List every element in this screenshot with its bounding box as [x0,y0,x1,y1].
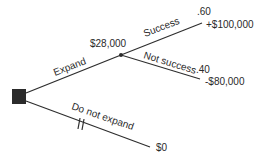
not-expand-label: Do not expand [70,100,135,132]
decision-node [12,89,26,104]
not-expand-payoff: $0 [156,142,168,153]
not-success-probability: .40 [196,64,210,75]
success-payoff: +$100,000 [206,19,254,30]
decision-tree-diagram: Expand $28,000 Success .60 +$100,000 Not… [0,0,258,166]
not-success-payoff: -$80,000 [205,76,245,87]
not-success-label: Not success [142,49,197,75]
pruned-branch-mark-icon [78,118,84,130]
success-label: Success [142,15,181,39]
expand-label: Expand [52,55,88,77]
success-probability: .60 [197,6,211,17]
chance-node-expected-value: $28,000 [90,38,127,49]
